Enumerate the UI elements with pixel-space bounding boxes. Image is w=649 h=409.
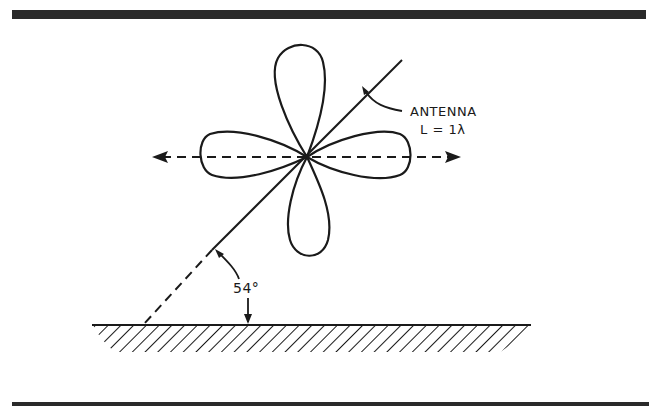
angle-down-arrowhead-icon xyxy=(244,314,252,324)
antenna-label: ANTENNA xyxy=(410,104,477,119)
antenna-line xyxy=(212,60,402,250)
antenna-extension-dashed xyxy=(143,250,212,325)
bottom-rule xyxy=(12,402,649,406)
angle-arc xyxy=(219,253,239,279)
radiation-pattern xyxy=(200,45,410,256)
antenna-length-label: L = 1λ xyxy=(420,122,465,137)
top-rule xyxy=(12,10,646,19)
antenna-leader-arrow xyxy=(366,92,402,111)
ground-hatching xyxy=(90,326,535,354)
angle-label: 54° xyxy=(233,280,259,296)
antenna-radiation-diagram xyxy=(0,0,649,409)
